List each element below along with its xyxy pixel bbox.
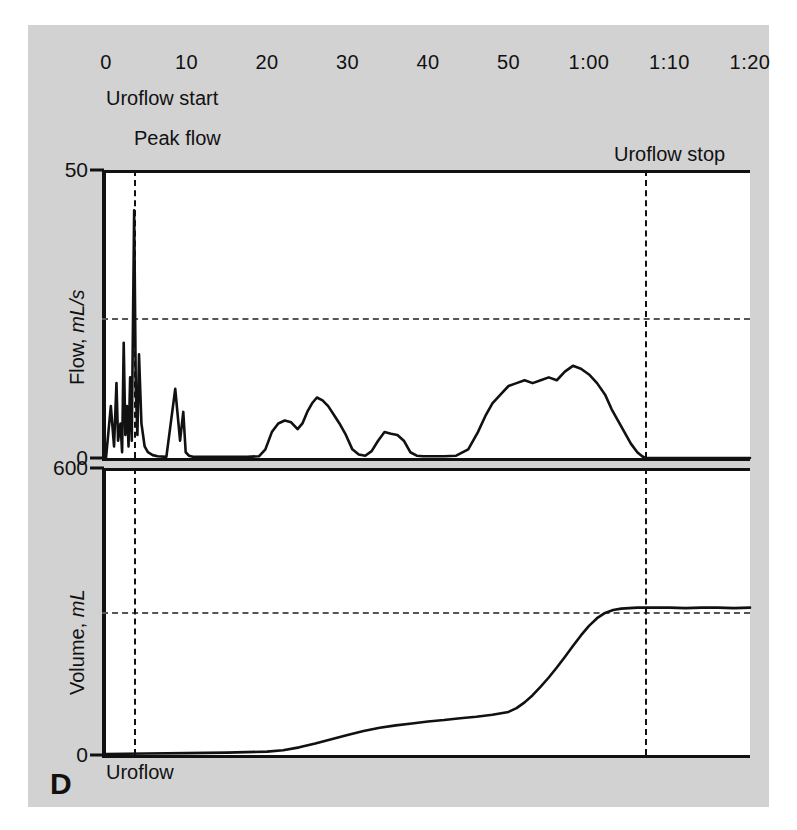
flow-axis-label: Flow, mL/s bbox=[66, 289, 89, 385]
volume-axis-label: Volume, mL bbox=[66, 589, 89, 695]
annotation-uroflow-stop: Uroflow stop bbox=[614, 143, 725, 166]
flow-trace-line bbox=[106, 210, 750, 458]
x-tick-20: 20 bbox=[255, 51, 278, 74]
volume-trace-svg bbox=[106, 468, 750, 755]
x-tick-0: 0 bbox=[100, 51, 112, 74]
volume-trace-line bbox=[106, 608, 750, 754]
uroflowmetry-figure: 010203040501:001:101:20 Uroflow start Pe… bbox=[28, 25, 769, 807]
panel-letter-label: D bbox=[50, 767, 72, 801]
x-tick-1-00: 1:00 bbox=[569, 51, 610, 74]
volume-ytick-0: 0 bbox=[76, 743, 88, 767]
volume-baseline bbox=[102, 755, 750, 758]
volume-ytick-600: 600 bbox=[53, 456, 88, 480]
annotation-uroflow-start: Uroflow start bbox=[106, 87, 218, 110]
figure-caption: Uroflow bbox=[106, 761, 174, 784]
x-tick-30: 30 bbox=[336, 51, 359, 74]
annotation-peak-flow: Peak flow bbox=[134, 127, 221, 150]
flow-ytick-0-dash bbox=[90, 457, 104, 460]
x-tick-10: 10 bbox=[175, 51, 198, 74]
volume-ytick-0-dash bbox=[90, 754, 104, 757]
x-tick-1-10: 1:10 bbox=[649, 51, 690, 74]
x-tick-50: 50 bbox=[497, 51, 520, 74]
volume-ytick-600-dash bbox=[90, 467, 104, 470]
flow-trace-svg bbox=[106, 170, 750, 458]
flow-ytick-50-dash bbox=[90, 169, 104, 172]
flow-ytick-50: 50 bbox=[65, 158, 88, 182]
x-tick-1-20: 1:20 bbox=[730, 51, 771, 74]
x-tick-40: 40 bbox=[416, 51, 439, 74]
